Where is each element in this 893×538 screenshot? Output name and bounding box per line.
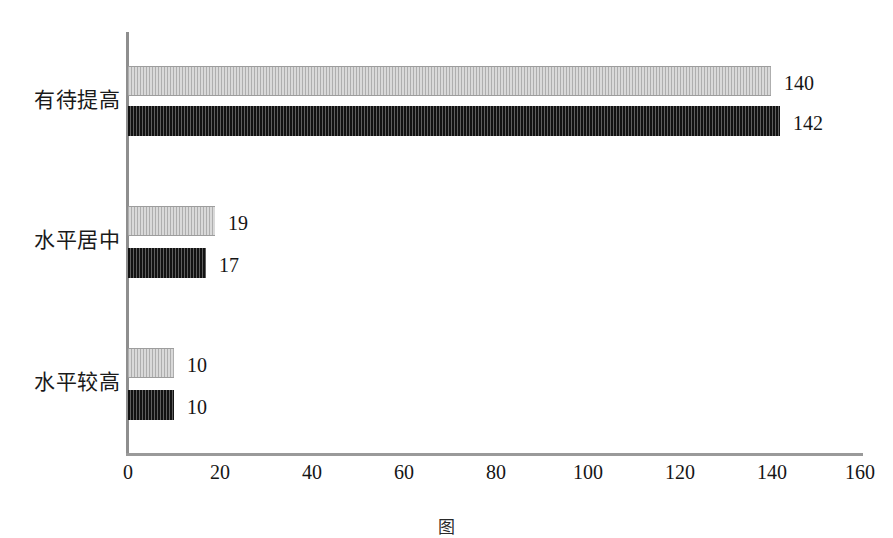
bar-medium-level-series-1 [128,206,215,236]
value-label-high-level-series-2: 10 [187,397,207,417]
x-tick-label-60: 60 [374,462,434,482]
value-label-medium-level-series-2: 17 [219,255,239,275]
bar-needs-improvement-series-2 [128,106,780,136]
value-label-high-level-series-1: 10 [187,355,207,375]
value-label-needs-improvement-series-2: 142 [793,113,823,133]
x-tick-label-80: 80 [466,462,526,482]
figure-caption: 图 [0,516,893,538]
x-tick-label-140: 140 [742,462,802,482]
category-label-needs-improvement: 有待提高 [0,90,120,111]
x-tick-label-20: 20 [190,462,250,482]
value-label-medium-level-series-1: 19 [228,213,248,233]
bar-high-level-series-2 [128,390,174,420]
bar-medium-level-series-2 [128,248,206,278]
x-tick-label-40: 40 [282,462,342,482]
category-label-high-level: 水平较高 [0,372,120,393]
x-axis-line [126,453,863,456]
value-label-needs-improvement-series-1: 140 [784,73,814,93]
x-tick-label-120: 120 [650,462,710,482]
category-label-medium-level: 水平居中 [0,230,120,251]
x-tick-label-100: 100 [558,462,618,482]
x-tick-label-0: 0 [98,462,158,482]
x-tick-label-160: 160 [830,462,890,482]
bar-needs-improvement-series-1 [128,66,771,96]
bar-high-level-series-1 [128,348,174,378]
